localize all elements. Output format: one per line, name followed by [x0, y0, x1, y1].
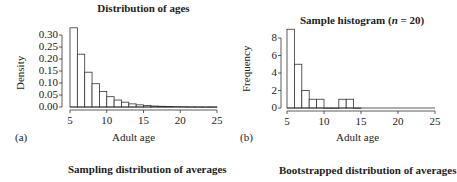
y-tick-label: 6	[237, 49, 277, 61]
chart-a-xlabel: Adult age	[112, 131, 155, 143]
histogram-bar	[287, 29, 294, 108]
y-tick-label: 4	[237, 66, 277, 78]
x-tick-label: 25	[202, 114, 232, 126]
x-tick-label: 10	[309, 115, 339, 127]
y-tick-label: 0	[237, 101, 277, 113]
bootstrapped-distribution-title: Bootstrapped distribution of averages	[279, 164, 457, 176]
y-tick-label: 2	[237, 84, 277, 96]
x-tick-label: 10	[92, 114, 122, 126]
histogram-bar	[70, 28, 77, 107]
histogram-bar	[317, 99, 324, 108]
chart-b-panel-label: (b)	[240, 131, 253, 143]
y-tick-label: 0.20	[18, 52, 58, 64]
sampling-distribution-title: Sampling distribution of averages	[68, 163, 227, 175]
y-tick-label: 0.05	[18, 88, 58, 100]
x-tick-label: 20	[165, 114, 195, 126]
y-tick-label: 0.15	[18, 64, 58, 76]
y-tick-label: 0.00	[18, 100, 58, 112]
histogram-bar	[85, 72, 92, 107]
histogram-bar	[92, 84, 99, 107]
x-tick-label: 5	[272, 115, 302, 127]
x-tick-label: 20	[383, 115, 413, 127]
chart-a-title: Distribution of ages	[70, 2, 217, 14]
y-tick-label: 8	[237, 31, 277, 43]
histogram-bar	[309, 99, 316, 108]
x-tick-label: 5	[55, 114, 85, 126]
x-tick-label: 15	[129, 114, 159, 126]
chart-b-xlabel: Adult age	[336, 131, 379, 143]
histogram-bar	[121, 102, 128, 107]
histogram-bar	[129, 104, 136, 107]
histogram-bar	[107, 97, 114, 107]
y-tick-label: 0.10	[18, 76, 58, 88]
x-tick-label: 25	[420, 115, 450, 127]
histogram-bar	[77, 54, 84, 107]
histogram-bar	[294, 64, 301, 108]
histogram-bar	[339, 99, 346, 108]
histogram-bar	[114, 100, 121, 107]
histogram-bar	[302, 91, 309, 109]
histogram-bar	[99, 91, 106, 107]
histogram-bar	[346, 99, 353, 108]
y-tick-label: 0.25	[18, 40, 58, 52]
y-tick-label: 0.30	[18, 28, 58, 40]
chart-a-panel-label: (a)	[15, 131, 27, 143]
x-tick-label: 15	[346, 115, 376, 127]
chart-b-title: Sample histogram (n = 20)	[300, 14, 424, 26]
